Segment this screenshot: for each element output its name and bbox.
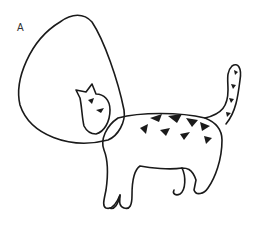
cat-leg-back xyxy=(173,168,184,195)
cat-with-cone-drawing xyxy=(0,0,254,227)
cone-collar xyxy=(19,15,125,143)
cat-head xyxy=(76,84,110,134)
